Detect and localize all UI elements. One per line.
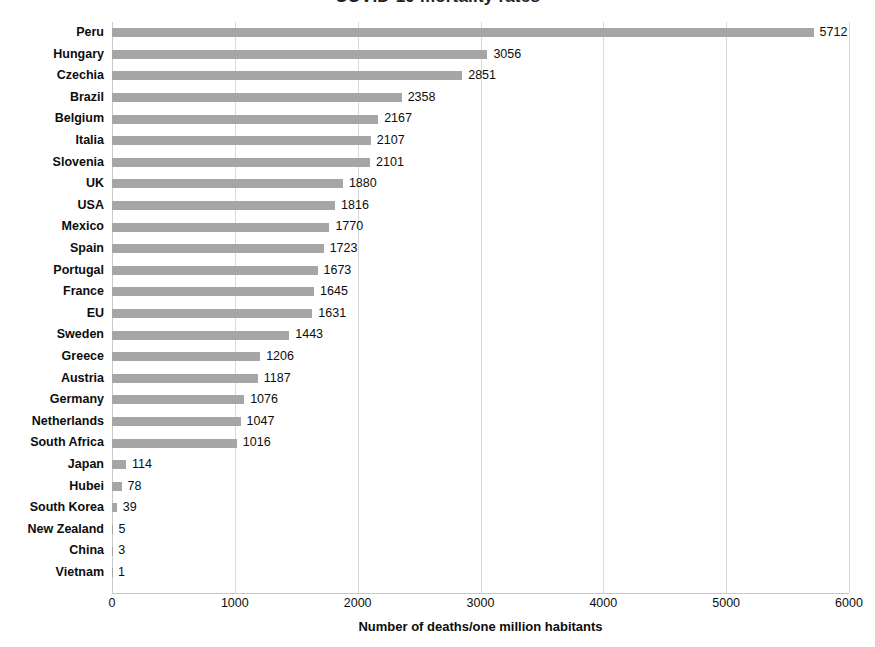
bar[interactable]	[112, 158, 370, 167]
x-tick-label: 1000	[205, 596, 265, 610]
x-tick-label: 6000	[819, 596, 875, 610]
category-label: Germany	[0, 389, 104, 411]
chart-row: Brazil2358	[0, 87, 875, 109]
category-label: Portugal	[0, 260, 104, 282]
bar[interactable]	[112, 352, 260, 361]
bar-value-label: 1631	[318, 303, 346, 325]
category-label: Vietnam	[0, 562, 104, 584]
bar[interactable]	[112, 460, 126, 469]
category-label: Slovenia	[0, 152, 104, 174]
category-label: Italia	[0, 130, 104, 152]
covid-mortality-bar-chart: COVID-19 mortality rates Number of death…	[0, 0, 875, 647]
bar-value-label: 78	[128, 476, 142, 498]
chart-row: Czechia2851	[0, 65, 875, 87]
chart-row: Greece1206	[0, 346, 875, 368]
bar[interactable]	[112, 71, 462, 80]
bar[interactable]	[112, 93, 402, 102]
category-label: Sweden	[0, 324, 104, 346]
bar-value-label: 1	[118, 562, 125, 584]
bar-value-label: 5712	[820, 22, 848, 44]
bar-value-label: 1016	[243, 432, 271, 454]
bar-value-label: 1723	[330, 238, 358, 260]
chart-row: Netherlands1047	[0, 411, 875, 433]
bar[interactable]	[112, 287, 314, 296]
bar-value-label: 1880	[349, 173, 377, 195]
chart-row: UK1880	[0, 173, 875, 195]
x-tick-label: 5000	[696, 596, 756, 610]
chart-row: USA1816	[0, 195, 875, 217]
bar[interactable]	[112, 115, 378, 124]
category-label: EU	[0, 303, 104, 325]
bar[interactable]	[112, 136, 371, 145]
bar[interactable]	[112, 331, 289, 340]
bar[interactable]	[112, 439, 237, 448]
bar-value-label: 1816	[341, 195, 369, 217]
bar[interactable]	[112, 417, 241, 426]
x-tick-label: 0	[82, 596, 142, 610]
bar[interactable]	[112, 503, 117, 512]
category-label: Brazil	[0, 87, 104, 109]
category-label: Austria	[0, 368, 104, 390]
bar[interactable]	[112, 223, 329, 232]
bar[interactable]	[112, 395, 244, 404]
chart-row: Sweden1443	[0, 324, 875, 346]
category-label: USA	[0, 195, 104, 217]
bar[interactable]	[112, 266, 318, 275]
bar-value-label: 1645	[320, 281, 348, 303]
bar-value-label: 2358	[408, 87, 436, 109]
bar[interactable]	[112, 244, 324, 253]
bar-value-label: 1443	[295, 324, 323, 346]
category-label: France	[0, 281, 104, 303]
chart-row: South Africa1016	[0, 432, 875, 454]
category-label: Hungary	[0, 44, 104, 66]
bar-value-label: 114	[132, 454, 152, 476]
x-tick-label: 2000	[328, 596, 388, 610]
chart-row: Portugal1673	[0, 260, 875, 282]
category-label: Netherlands	[0, 411, 104, 433]
bar-value-label: 3056	[493, 44, 521, 66]
chart-row: Mexico1770	[0, 216, 875, 238]
chart-row: EU1631	[0, 303, 875, 325]
x-tick-label: 3000	[451, 596, 511, 610]
bar[interactable]	[112, 309, 312, 318]
bar-value-label: 1076	[250, 389, 278, 411]
category-label: South Korea	[0, 497, 104, 519]
chart-row: Belgium2167	[0, 108, 875, 130]
category-label: Hubei	[0, 476, 104, 498]
bar-value-label: 1206	[266, 346, 294, 368]
bar-value-label: 2851	[468, 65, 496, 87]
bar-value-label: 1770	[335, 216, 363, 238]
chart-row: Spain1723	[0, 238, 875, 260]
bar[interactable]	[112, 50, 487, 59]
bar-value-label: 1673	[324, 260, 352, 282]
chart-row: Slovenia2101	[0, 152, 875, 174]
chart-row: Peru5712	[0, 22, 875, 44]
chart-row: Hubei78	[0, 476, 875, 498]
category-label: Czechia	[0, 65, 104, 87]
chart-row: Germany1076	[0, 389, 875, 411]
bar-value-label: 2107	[377, 130, 405, 152]
bar[interactable]	[112, 374, 258, 383]
bar-value-label: 1047	[247, 411, 275, 433]
chart-row: France1645	[0, 281, 875, 303]
category-label: South Africa	[0, 432, 104, 454]
chart-row: Vietnam1	[0, 562, 875, 584]
category-label: Japan	[0, 454, 104, 476]
bar[interactable]	[112, 179, 343, 188]
chart-row: Hungary3056	[0, 44, 875, 66]
chart-title: COVID-19 mortality rates	[0, 0, 875, 7]
x-axis-line	[112, 593, 849, 594]
bar-value-label: 39	[123, 497, 137, 519]
category-label: Belgium	[0, 108, 104, 130]
x-tick-label: 4000	[573, 596, 633, 610]
bar-value-label: 2101	[376, 152, 404, 174]
category-label: New Zealand	[0, 519, 104, 541]
bar[interactable]	[112, 201, 335, 210]
chart-row: Austria1187	[0, 368, 875, 390]
bar-value-label: 2167	[384, 108, 412, 130]
bar[interactable]	[112, 482, 122, 491]
category-label: Spain	[0, 238, 104, 260]
chart-row: South Korea39	[0, 497, 875, 519]
bar[interactable]	[112, 28, 814, 37]
bar[interactable]	[112, 525, 113, 534]
